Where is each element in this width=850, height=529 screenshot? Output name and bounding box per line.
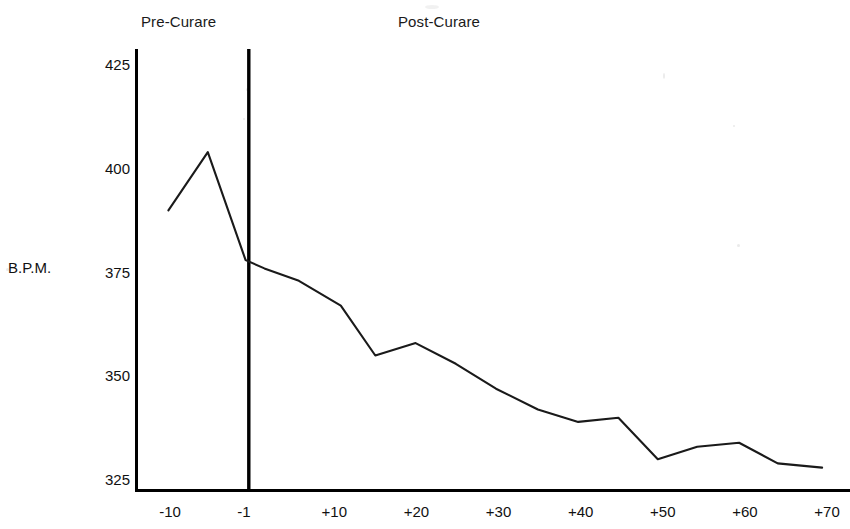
chart-figure: Pre-Curare Post-Curare B.P.M. 4254003753… [0, 0, 850, 529]
heart-rate-line [168, 152, 822, 467]
plot-area [0, 0, 850, 529]
